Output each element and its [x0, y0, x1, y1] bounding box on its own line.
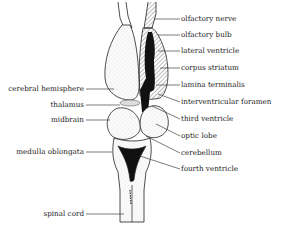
- brain-illustration: [0, 0, 285, 232]
- thalamus: [120, 100, 140, 106]
- label-interventricular-foramen: interventricular foramen: [181, 98, 271, 106]
- brain-diagram: olfactory nerve olfactory bulb lateral v…: [0, 0, 285, 232]
- label-midbrain: midbrain: [51, 116, 84, 124]
- label-optic-lobe: optic lobe: [181, 132, 217, 140]
- label-olfactory-nerve: olfactory nerve: [181, 15, 236, 23]
- label-thalamus: thalamus: [50, 101, 84, 109]
- label-lamina-terminalis: lamina terminalis: [181, 81, 245, 89]
- label-medulla-oblongata: medulla oblongata: [16, 148, 84, 156]
- label-lateral-ventricle: lateral ventricle: [181, 47, 239, 55]
- right-optic-lobe: [140, 106, 168, 138]
- right-olfactory-nerve: [144, 2, 156, 28]
- label-olfactory-bulb: olfactory bulb: [181, 31, 232, 39]
- left-optic-lobe: [107, 108, 140, 140]
- label-spinal-cord: spinal cord: [44, 210, 84, 218]
- left-olfactory-nerve: [118, 2, 132, 28]
- label-third-ventricle: third ventricle: [181, 115, 233, 123]
- label-cerebral-hemisphere: cerebral hemisphere: [8, 85, 84, 93]
- label-corpus-striatum: corpus striatum: [181, 64, 239, 72]
- label-cerebellum: cerebellum: [181, 149, 222, 157]
- label-fourth-ventricle: fourth ventricle: [181, 165, 238, 173]
